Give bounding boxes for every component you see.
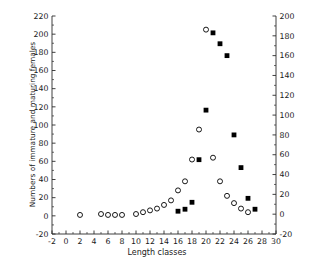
- data-point-circle: [225, 193, 230, 198]
- data-point-square: [190, 200, 195, 205]
- data-point-square: [176, 209, 181, 214]
- x-tick-label: 22: [215, 237, 225, 246]
- data-point-circle: [113, 212, 118, 217]
- data-point-circle: [211, 155, 216, 160]
- data-point-circle: [239, 206, 244, 211]
- y-tick-label-left: 20: [39, 193, 49, 202]
- y-tick-label-left: 0: [44, 212, 49, 221]
- plot-area: -20020406080100120140160180200220-200204…: [0, 0, 314, 264]
- y-tick-label-left: 60: [39, 157, 49, 166]
- y-tick-label-right: 40: [280, 170, 290, 179]
- x-axis-title: Length classes: [0, 248, 314, 257]
- x-tick-label: 18: [187, 237, 197, 246]
- x-tick-label: 0: [64, 237, 69, 246]
- data-point-circle: [155, 206, 160, 211]
- data-point-circle: [99, 212, 104, 217]
- x-tick-label: 24: [229, 237, 239, 246]
- y-tick-label-left: 220: [34, 12, 49, 21]
- data-point-square: [239, 165, 244, 170]
- data-point-circle: [106, 212, 111, 217]
- x-tick-label: 14: [159, 237, 169, 246]
- y-tick-label-right: 80: [280, 131, 290, 140]
- x-tick-label: 26: [243, 237, 253, 246]
- y-tick-label-right: 160: [280, 51, 295, 60]
- x-tick-label: 2: [78, 237, 83, 246]
- y-tick-label-right: 120: [280, 91, 295, 100]
- data-point-circle: [246, 210, 251, 215]
- data-point-square: [253, 207, 258, 212]
- data-point-circle: [78, 212, 83, 217]
- series-open-circle: [78, 27, 251, 217]
- data-point-circle: [141, 210, 146, 215]
- y-tick-label-left: 40: [39, 175, 49, 184]
- y-tick-label-right: 200: [280, 12, 295, 21]
- series-filled-square: [176, 30, 258, 213]
- y-tick-label-right: 20: [280, 190, 290, 199]
- y-tick-label-left: -20: [36, 230, 49, 239]
- x-tick-label: 6: [106, 237, 111, 246]
- x-tick-label: 20: [201, 237, 211, 246]
- x-tick-label: 10: [131, 237, 141, 246]
- y-tick-label-left: 80: [39, 139, 49, 148]
- data-point-circle: [232, 201, 237, 206]
- y-axis-left-title: Numbers of immature and maturing females: [28, 35, 37, 215]
- y-tick-label-right: 100: [280, 111, 295, 120]
- data-point-square: [183, 207, 188, 212]
- x-tick-label: 16: [173, 237, 183, 246]
- data-point-square: [225, 53, 230, 58]
- y-tick-label-right: 180: [280, 32, 295, 41]
- data-point-circle: [134, 212, 139, 217]
- x-tick-label: 28: [257, 237, 267, 246]
- y-tick-label-right: 60: [280, 150, 290, 159]
- scatter-chart-figure: Numbers of immature and maturing females…: [0, 0, 314, 264]
- y-tick-label-right: 140: [280, 71, 295, 80]
- data-point-circle: [197, 127, 202, 132]
- data-point-square: [246, 196, 251, 201]
- data-point-square: [197, 157, 202, 162]
- data-point-circle: [148, 208, 153, 213]
- x-tick-label: 30: [271, 237, 281, 246]
- x-tick-label: 8: [120, 237, 125, 246]
- data-point-circle: [120, 212, 125, 217]
- data-point-square: [232, 133, 237, 138]
- x-tick-label: 12: [145, 237, 155, 246]
- y-tick-label-right: -20: [280, 230, 293, 239]
- y-tick-label-right: 0: [280, 210, 285, 219]
- data-point-circle: [176, 188, 181, 193]
- x-tick-label: -2: [48, 237, 56, 246]
- data-point-circle: [218, 179, 223, 184]
- x-tick-label: 4: [92, 237, 97, 246]
- data-point-circle: [183, 179, 188, 184]
- data-point-square: [211, 30, 216, 35]
- data-point-square: [218, 41, 223, 46]
- data-point-circle: [162, 202, 167, 207]
- data-point-circle: [204, 27, 209, 32]
- data-point-circle: [190, 157, 195, 162]
- data-point-circle: [169, 198, 174, 203]
- data-point-square: [204, 108, 209, 113]
